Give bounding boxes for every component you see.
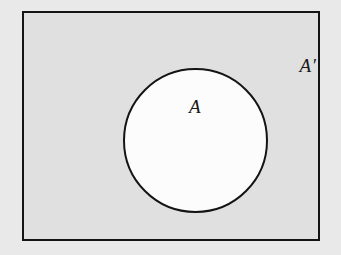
set-a-circle (123, 68, 268, 213)
universal-set-rectangle: A A′ (22, 11, 320, 241)
venn-diagram-figure: A A′ (0, 0, 341, 255)
set-a-label: A (189, 97, 201, 116)
set-a-complement-label: A′ (300, 56, 317, 75)
